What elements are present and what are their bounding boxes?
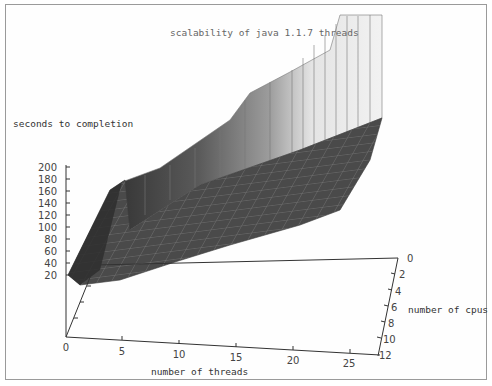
x-tick-label: 25 <box>343 358 356 369</box>
z-tick-label: 140 <box>38 198 57 209</box>
z-tick-label: 40 <box>44 258 57 269</box>
y-tick-label: 8 <box>388 318 394 329</box>
depth-ticks <box>74 286 91 318</box>
z-tick-label: 120 <box>38 210 57 221</box>
x-tick-label: 0 <box>63 342 69 353</box>
x-tick-label: 10 <box>173 349 186 360</box>
chart-title: scalability of java 1.1.7 threads <box>170 27 359 38</box>
y-tick-label: 10 <box>383 334 396 345</box>
y-axis-label: number of cpus <box>408 304 488 315</box>
x-tick-labels: 0 5 10 15 20 25 <box>63 342 356 369</box>
z-tick-label: 200 <box>38 162 57 173</box>
z-ticks <box>66 167 70 275</box>
z-tick-label: 20 <box>44 270 57 281</box>
x-tick-label: 20 <box>287 355 300 366</box>
y-tick-label: 4 <box>395 286 401 297</box>
z-tick-label: 80 <box>44 234 57 245</box>
y-tick-label: 0 <box>407 253 413 264</box>
z-tick-label: 100 <box>38 222 57 233</box>
x-axis-label: number of threads <box>151 366 248 377</box>
threads-ticks <box>122 336 350 353</box>
z-axis-label: seconds to completion <box>13 118 133 129</box>
y-tick-label: 2 <box>399 269 405 280</box>
z-tick-label: 60 <box>44 246 57 257</box>
z-tick-label: 180 <box>38 174 57 185</box>
surface-plot: scalability of java 1.1.7 threads second… <box>0 0 492 386</box>
y-tick-label: 12 <box>379 350 392 361</box>
x-tick-label: 5 <box>119 346 125 357</box>
z-tick-label: 160 <box>38 186 57 197</box>
x-tick-label: 15 <box>230 352 243 363</box>
threads-axis <box>66 337 380 355</box>
y-tick-label: 6 <box>391 302 397 313</box>
z-tick-labels: 200 180 160 140 120 100 80 60 40 20 <box>38 162 57 281</box>
